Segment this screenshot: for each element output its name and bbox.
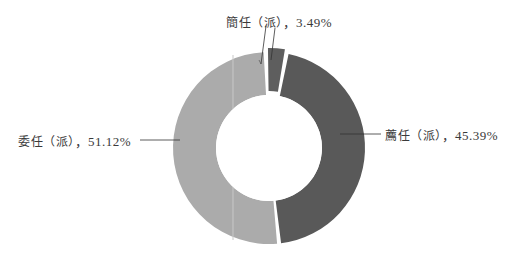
label-name: 薦任（派） <box>385 129 442 143</box>
label-value: ，45.39% <box>442 128 499 143</box>
label-jianren-right: 薦任（派），45.39% <box>385 125 498 144</box>
label-jianren-top: 簡任（派），3.49% <box>226 12 332 31</box>
donut-slices <box>173 48 365 244</box>
label-value: ，3.49% <box>283 15 333 30</box>
label-value: ，51.12% <box>75 134 132 149</box>
label-weiren: 委任（派），51.12% <box>18 131 131 150</box>
label-name: 委任（派） <box>18 135 75 149</box>
label-name: 簡任（派） <box>226 16 283 30</box>
donut-hole <box>216 95 322 201</box>
